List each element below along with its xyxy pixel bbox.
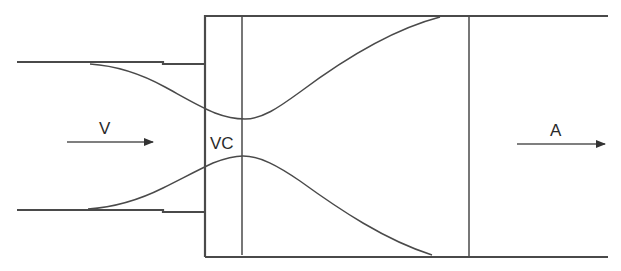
- jet-boundary: [88, 17, 440, 255]
- inlet-pipe: [17, 62, 205, 212]
- inlet-velocity-indicator: V: [67, 119, 153, 142]
- jet-lower-streamline: [88, 156, 432, 255]
- inlet-pipe-top-wall: [17, 62, 205, 64]
- inlet-velocity-label: V: [99, 119, 111, 138]
- outlet-pipe: [205, 15, 608, 257]
- outlet-area-label: A: [550, 121, 562, 140]
- jet-upper-streamline: [90, 17, 440, 119]
- vena-contracta-label: VC: [210, 134, 234, 153]
- inlet-pipe-bottom-wall: [17, 210, 205, 212]
- pipe-expansion-diagram: V VC A: [0, 0, 621, 271]
- outlet-area-indicator: A: [517, 121, 605, 144]
